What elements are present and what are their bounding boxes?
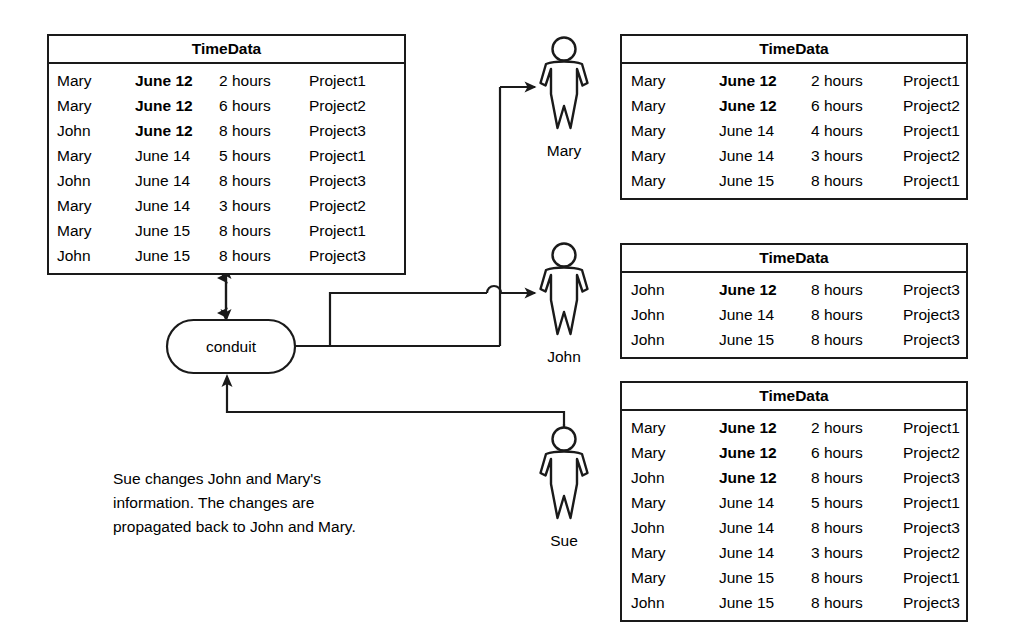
- table-john: TimeData JohnJune 128 hoursProject3JohnJ…: [620, 243, 968, 359]
- table-row: MaryJune 144 hoursProject1: [622, 118, 966, 143]
- cell-date: June 14: [719, 118, 811, 143]
- table-main: TimeData MaryJune 122 hoursProject1MaryJ…: [47, 34, 406, 275]
- cell-date: June 14: [135, 168, 219, 193]
- cell-name: Mary: [622, 565, 719, 590]
- cell-name: John: [49, 243, 135, 268]
- cell-project: Project2: [903, 440, 1003, 465]
- cell-hours: 3 hours: [219, 193, 309, 218]
- cell-project: Project2: [309, 193, 399, 218]
- cell-date: June 15: [135, 218, 219, 243]
- table-row: MaryJune 143 hoursProject2: [49, 193, 404, 218]
- cell-hours: 5 hours: [219, 143, 309, 168]
- table-body: MaryJune 122 hoursProject1MaryJune 126 h…: [622, 64, 966, 198]
- person-john[interactable]: John: [532, 242, 596, 366]
- conduit-label: conduit: [167, 337, 295, 357]
- cell-hours: 8 hours: [811, 168, 903, 193]
- arrow-sue-to-conduit: [227, 380, 564, 438]
- cell-date: June 12: [719, 277, 811, 302]
- cell-date: June 12: [719, 415, 811, 440]
- table-row: MaryJune 158 hoursProject1: [622, 565, 966, 590]
- table-title: TimeData: [49, 36, 404, 64]
- person-label-mary: Mary: [532, 142, 596, 160]
- table-title: TimeData: [622, 383, 966, 411]
- caption-text: Sue changes John and Mary's information.…: [113, 467, 413, 539]
- cell-name: Mary: [49, 218, 135, 243]
- cell-hours: 8 hours: [811, 565, 903, 590]
- person-icon: [532, 242, 596, 342]
- person-icon: [532, 36, 596, 136]
- table-row: JohnJune 148 hoursProject3: [622, 302, 966, 327]
- cell-hours: 6 hours: [811, 93, 903, 118]
- cell-name: Mary: [622, 93, 719, 118]
- cell-date: June 14: [719, 490, 811, 515]
- cell-hours: 8 hours: [219, 243, 309, 268]
- person-mary[interactable]: Mary: [532, 36, 596, 160]
- person-icon: [532, 426, 596, 526]
- cell-date: June 15: [135, 243, 219, 268]
- cell-hours: 2 hours: [811, 415, 903, 440]
- cell-date: June 12: [135, 93, 219, 118]
- cell-hours: 8 hours: [811, 465, 903, 490]
- cell-project: Project3: [903, 277, 1003, 302]
- cell-hours: 8 hours: [219, 168, 309, 193]
- cell-name: John: [622, 302, 719, 327]
- cell-hours: 6 hours: [811, 440, 903, 465]
- table-sue: TimeData MaryJune 122 hoursProject1MaryJ…: [620, 381, 968, 622]
- cell-project: Project1: [903, 490, 1003, 515]
- cell-project: Project2: [903, 540, 1003, 565]
- cell-project: Project3: [309, 118, 399, 143]
- cell-date: June 12: [719, 93, 811, 118]
- cell-name: Mary: [622, 440, 719, 465]
- table-row: MaryJune 126 hoursProject2: [622, 440, 966, 465]
- cell-project: Project1: [309, 143, 399, 168]
- diagram-canvas: conduit Mary John Sue TimeData MaryJune …: [0, 0, 1025, 642]
- cell-date: June 15: [719, 565, 811, 590]
- cell-project: Project1: [309, 68, 399, 93]
- cell-date: June 12: [719, 440, 811, 465]
- cell-name: John: [49, 168, 135, 193]
- cell-project: Project1: [903, 168, 1003, 193]
- cell-name: Mary: [622, 540, 719, 565]
- cell-name: Mary: [622, 68, 719, 93]
- cell-project: Project3: [903, 590, 1003, 615]
- person-sue[interactable]: Sue: [532, 426, 596, 550]
- table-row: MaryJune 126 hoursProject2: [49, 93, 404, 118]
- cell-hours: 8 hours: [219, 118, 309, 143]
- cell-project: Project2: [903, 143, 1003, 168]
- table-row: JohnJune 148 hoursProject3: [49, 168, 404, 193]
- cell-name: Mary: [49, 68, 135, 93]
- table-row: JohnJune 128 hoursProject3: [622, 465, 966, 490]
- cell-project: Project3: [903, 327, 1003, 352]
- cell-name: Mary: [49, 143, 135, 168]
- cell-project: Project3: [309, 168, 399, 193]
- cell-project: Project2: [309, 93, 399, 118]
- cell-name: Mary: [622, 143, 719, 168]
- cell-hours: 4 hours: [811, 118, 903, 143]
- cell-name: John: [622, 465, 719, 490]
- cell-name: John: [622, 515, 719, 540]
- cell-date: June 15: [719, 590, 811, 615]
- cell-project: Project1: [309, 218, 399, 243]
- cell-project: Project3: [903, 515, 1003, 540]
- cell-date: June 15: [719, 168, 811, 193]
- cell-name: Mary: [49, 193, 135, 218]
- table-row: JohnJune 158 hoursProject3: [622, 327, 966, 352]
- cell-date: June 15: [719, 327, 811, 352]
- cell-hours: 2 hours: [811, 68, 903, 93]
- cell-project: Project3: [309, 243, 399, 268]
- table-row: MaryJune 143 hoursProject2: [622, 143, 966, 168]
- cell-project: Project2: [903, 93, 1003, 118]
- table-row: JohnJune 128 hoursProject3: [622, 277, 966, 302]
- table-body: MaryJune 122 hoursProject1MaryJune 126 h…: [49, 64, 404, 273]
- table-row: MaryJune 122 hoursProject1: [622, 68, 966, 93]
- cell-hours: 8 hours: [811, 277, 903, 302]
- person-label-sue: Sue: [532, 532, 596, 550]
- cell-hours: 8 hours: [811, 327, 903, 352]
- cell-hours: 5 hours: [811, 490, 903, 515]
- table-row: MaryJune 145 hoursProject1: [622, 490, 966, 515]
- cell-date: June 14: [719, 540, 811, 565]
- table-row: MaryJune 126 hoursProject2: [622, 93, 966, 118]
- cell-hours: 8 hours: [811, 590, 903, 615]
- cell-name: John: [622, 277, 719, 302]
- cell-project: Project1: [903, 415, 1003, 440]
